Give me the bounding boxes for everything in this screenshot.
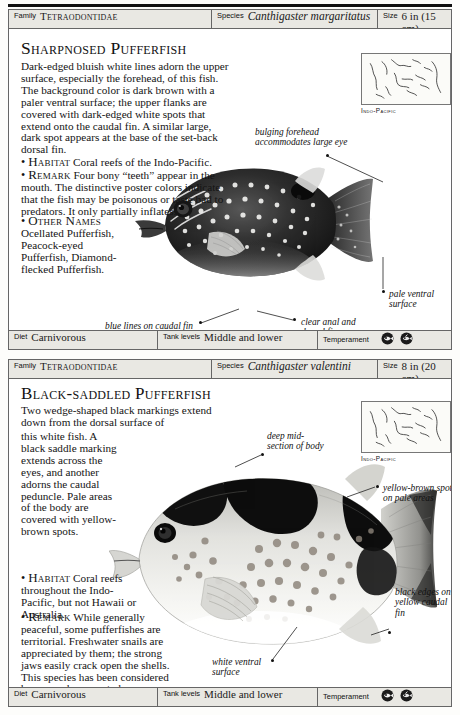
species-entry-black-saddled-pufferfish: Family Tetraodontidae Species Canthigast… bbox=[8, 359, 452, 707]
entry-footer: Diet Carnivorous Tank levels Middle and … bbox=[9, 687, 451, 706]
callout-leader-bulging-forehead bbox=[327, 156, 389, 186]
diet-label: Diet bbox=[14, 689, 27, 698]
callout-bulging-forehead: bulging forehead accommodates large eye bbox=[255, 127, 351, 148]
diet-label: Diet bbox=[14, 332, 27, 341]
other-names-block: • Other Names Ocellated Pufferfish, Peac… bbox=[21, 215, 129, 276]
temperament-icon-group bbox=[381, 689, 413, 702]
entry-content: Sharpnosed Pufferfish Dark-edged bluish … bbox=[9, 29, 451, 330]
footer-cell-diet: Diet Carnivorous bbox=[9, 688, 157, 706]
species-label: Species bbox=[217, 11, 244, 20]
header-cell-species: Species Canthigaster valentini bbox=[211, 360, 377, 378]
entry-header: Family Tetraodontidae Species Canthigast… bbox=[9, 10, 451, 29]
diet-value: Carnivorous bbox=[31, 331, 85, 343]
size-value: 6 in (15 cm) bbox=[402, 10, 446, 28]
species-entry-sharpnosed-pufferfish: Family Tetraodontidae Species Canthigast… bbox=[8, 9, 452, 350]
family-value: Tetraodontidae bbox=[40, 10, 118, 22]
footer-cell-temperament: Temperament bbox=[317, 688, 451, 706]
page-top-rule bbox=[8, 4, 452, 7]
callout-blue-lines: blue lines on caudal fin bbox=[105, 321, 195, 330]
other-names-label: Other Names bbox=[28, 213, 101, 228]
eye bbox=[154, 523, 176, 543]
remark-paragraph: • Remark While generally peaceful, some … bbox=[21, 611, 181, 687]
temperament-label: Temperament bbox=[323, 692, 369, 701]
range-map: Indo-Pacific bbox=[361, 401, 451, 453]
entry-border: Family Tetraodontidae Species Canthigast… bbox=[8, 359, 452, 707]
description-paragraph: Dark-edged bluish white lines adorn the … bbox=[21, 61, 233, 156]
temperament-icon-group bbox=[381, 332, 413, 345]
species-value: Canthigaster valentini bbox=[248, 360, 351, 372]
range-map-caption: Indo-Pacific bbox=[361, 107, 451, 114]
entry-header: Family Tetraodontidae Species Canthigast… bbox=[9, 360, 451, 379]
entry-body-remark: • Remark While generally peaceful, some … bbox=[21, 611, 181, 687]
callout-black-edges: black edges on yellow caudal fin bbox=[395, 587, 451, 618]
footer-cell-tank-levels: Tank levels Middle and lower bbox=[157, 331, 317, 349]
diet-value: Carnivorous bbox=[31, 688, 85, 700]
remark-label: Remark bbox=[28, 167, 70, 182]
callout-leader-deep-midsection bbox=[235, 455, 265, 471]
callout-leader-white-ventral bbox=[273, 627, 303, 661]
family-label: Family bbox=[14, 11, 36, 20]
callout-leader-pale-ventral bbox=[371, 257, 387, 291]
entry-body-intro: Two wedge-shaped black markings extend d… bbox=[21, 405, 217, 429]
callout-leader-clear-fins bbox=[257, 311, 297, 327]
temperament-label: Temperament bbox=[323, 335, 369, 344]
entry-border: Family Tetraodontidae Species Canthigast… bbox=[8, 9, 452, 350]
entry-content: Black-saddled Pufferfish Two wedge-shape… bbox=[9, 379, 451, 687]
callout-clear-fins: clear anal and dorsal fins bbox=[301, 317, 381, 330]
entry-body-text: Dark-edged bluish white lines adorn the … bbox=[21, 61, 233, 218]
field-guide-page: Family Tetraodontidae Species Canthigast… bbox=[0, 0, 460, 715]
entry-footer: Diet Carnivorous Tank levels Middle and … bbox=[9, 330, 451, 349]
tank-levels-label: Tank levels bbox=[163, 332, 200, 341]
entry-title: Sharpnosed Pufferfish bbox=[21, 38, 187, 59]
family-value: Tetraodontidae bbox=[40, 360, 118, 372]
callout-pale-ventral: pale ventral surface bbox=[389, 289, 451, 310]
species-label: Species bbox=[217, 361, 244, 370]
tank-levels-label: Tank levels bbox=[163, 689, 200, 698]
remark-paragraph: • Remark Four bony “teeth” appear in the… bbox=[21, 169, 233, 218]
header-cell-family: Family Tetraodontidae bbox=[9, 10, 211, 28]
callout-leader-yellow-brown-spots bbox=[347, 487, 379, 501]
territorial-fish-icon bbox=[400, 332, 413, 345]
range-map: Indo-Pacific bbox=[361, 53, 451, 105]
range-map-caption: Indo-Pacific bbox=[361, 455, 451, 462]
other-names-text: Ocellated Pufferfish, Peacock-eyed Puffe… bbox=[21, 227, 117, 275]
size-label: Size bbox=[383, 361, 398, 370]
callout-leader-blue-lines bbox=[201, 309, 245, 330]
description-paragraph-lead: Two wedge-shaped black markings extend d… bbox=[21, 405, 217, 429]
aggressive-fish-icon bbox=[381, 332, 394, 345]
footer-cell-tank-levels: Tank levels Middle and lower bbox=[157, 688, 317, 706]
size-value: 8 in (20 cm) bbox=[402, 360, 446, 378]
footer-cell-diet: Diet Carnivorous bbox=[9, 331, 157, 349]
remark-text-pre: While generally peaceful, some pufferfis… bbox=[21, 611, 170, 687]
range-map-frame bbox=[361, 53, 451, 105]
habitat-text: Coral reefs of the Indo-Pacific. bbox=[73, 156, 212, 168]
territorial-fish-icon bbox=[400, 689, 413, 702]
entry-title: Black-saddled Pufferfish bbox=[21, 384, 211, 404]
tank-levels-value: Middle and lower bbox=[204, 688, 282, 700]
species-value: Canthigaster margaritatus bbox=[248, 10, 371, 22]
entry-body-narrow: this white fish. A black saddle marking … bbox=[21, 431, 117, 538]
family-label: Family bbox=[14, 361, 36, 370]
size-label: Size bbox=[383, 11, 398, 20]
footer-cell-temperament: Temperament bbox=[317, 331, 451, 349]
header-cell-size: Size 6 in (15 cm) bbox=[377, 10, 451, 28]
remark-label: Remark bbox=[28, 609, 70, 624]
header-cell-species: Species Canthigaster margaritatus bbox=[211, 10, 377, 28]
callout-leader-black-edges bbox=[371, 623, 393, 637]
habitat-label: Habitat bbox=[28, 570, 70, 585]
other-names-paragraph: • Other Names Ocellated Pufferfish, Peac… bbox=[21, 215, 129, 276]
header-cell-family: Family Tetraodontidae bbox=[9, 360, 211, 378]
callout-deep-midsection: deep mid-section of body bbox=[267, 431, 329, 452]
range-map-frame bbox=[361, 401, 451, 453]
tank-levels-value: Middle and lower bbox=[204, 331, 282, 343]
header-cell-size: Size 8 in (20 cm) bbox=[377, 360, 451, 378]
aggressive-fish-icon bbox=[381, 689, 394, 702]
callout-yellow-brown-spots: yellow-brown spots on pale areas bbox=[383, 483, 451, 504]
description-paragraph-rest: this white fish. A black saddle marking … bbox=[21, 431, 117, 538]
callout-white-ventral: white ventral surface bbox=[212, 657, 270, 678]
